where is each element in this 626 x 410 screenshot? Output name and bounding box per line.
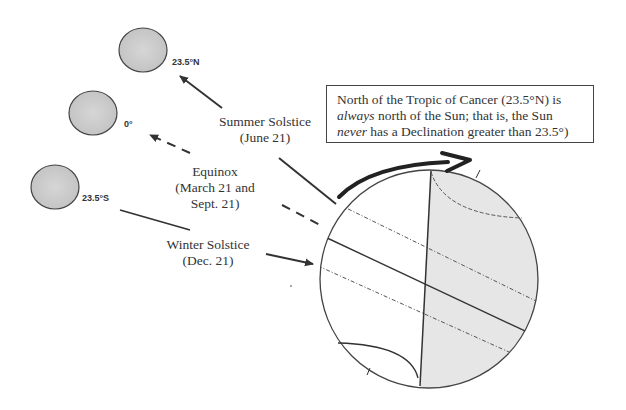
note-emphasis-always: always: [337, 108, 375, 123]
note-line-2-rest: north of the Sun; that is, the Sun: [375, 108, 553, 123]
stray-dot: [290, 285, 292, 287]
summer-solstice-date: (June 21): [205, 130, 325, 146]
equinox-date-2: Sept. 21): [165, 196, 265, 212]
winter-solstice-label: Winter Solstice (Dec. 21): [153, 237, 263, 269]
tropic-note-box: North of the Tropic of Cancer (23.5°N) i…: [326, 85, 594, 143]
winter-solstice-title: Winter Solstice: [153, 237, 263, 253]
summer-declination-label: 23.5°N: [172, 57, 200, 67]
sun-equinox-icon: [69, 91, 117, 135]
sun-summer-icon: [119, 28, 167, 72]
summer-solstice-title: Summer Solstice: [205, 114, 325, 130]
note-emphasis-never: never: [337, 124, 367, 139]
equinox-label: Equinox (March 21 and Sept. 21): [165, 164, 265, 212]
summer-solstice-label: Summer Solstice (June 21): [205, 114, 325, 146]
note-line-3: never has a Declination greater than 23.…: [337, 124, 593, 140]
equinox-declination-label: 0°: [124, 119, 133, 129]
sun-winter-icon: [31, 165, 79, 209]
note-line-3-rest: has a Declination greater than 23.5°): [367, 124, 568, 139]
solstice-diagram: [0, 0, 626, 410]
note-line-1: North of the Tropic of Cancer (23.5°N) i…: [337, 92, 593, 108]
winter-solstice-date: (Dec. 21): [153, 253, 263, 269]
equinox-title: Equinox: [165, 164, 265, 180]
equinox-date-1: (March 21 and: [165, 180, 265, 196]
note-line-2: always north of the Sun; that is, the Su…: [337, 108, 593, 124]
earth-globe: [318, 170, 600, 388]
winter-declination-label: 23.5°S: [82, 193, 109, 203]
